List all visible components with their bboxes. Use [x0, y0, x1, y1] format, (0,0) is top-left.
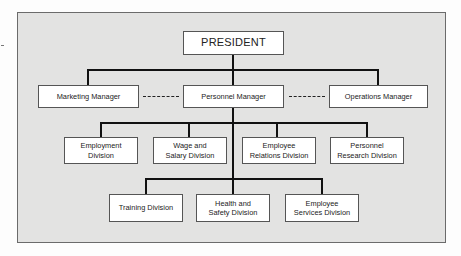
personnel-manager-box: Personnel Manager	[183, 85, 284, 108]
training-division-box: Training Division	[109, 194, 183, 222]
wage-salary-division-box: Wage and Salary Division	[153, 137, 227, 164]
employee-services-division-box: Employee Services Division	[285, 194, 359, 222]
connector-drop-training	[145, 178, 147, 194]
connector-marketing-drop	[87, 69, 89, 85]
employee-relations-division-box: Employee Relations Division	[242, 137, 316, 164]
staff-relation-dash-right	[289, 96, 325, 97]
employment-division-box: Employment Division	[64, 137, 138, 164]
edge-tick-mark	[1, 45, 4, 46]
connector-drop-employment	[100, 122, 102, 137]
connector-drop-wage	[188, 122, 190, 137]
connector-personnel-trunk	[232, 108, 234, 194]
operations-manager-box: Operations Manager	[329, 85, 428, 108]
connector-drop-relations	[276, 122, 278, 137]
marketing-manager-box: Marketing Manager	[38, 85, 139, 108]
connector-division-bar-2	[145, 178, 323, 180]
health-safety-division-box: Health and Safety Division	[196, 194, 270, 222]
president-box: PRESIDENT	[183, 31, 284, 55]
connector-personnel-drop	[232, 69, 234, 85]
personnel-research-division-box: Personnel Research Division	[330, 137, 404, 164]
connector-operations-drop	[377, 69, 379, 85]
connector-drop-research	[366, 122, 368, 137]
staff-relation-dash-left	[143, 96, 179, 97]
connector-division-bar-1	[100, 122, 368, 124]
connector-drop-services	[321, 178, 323, 194]
